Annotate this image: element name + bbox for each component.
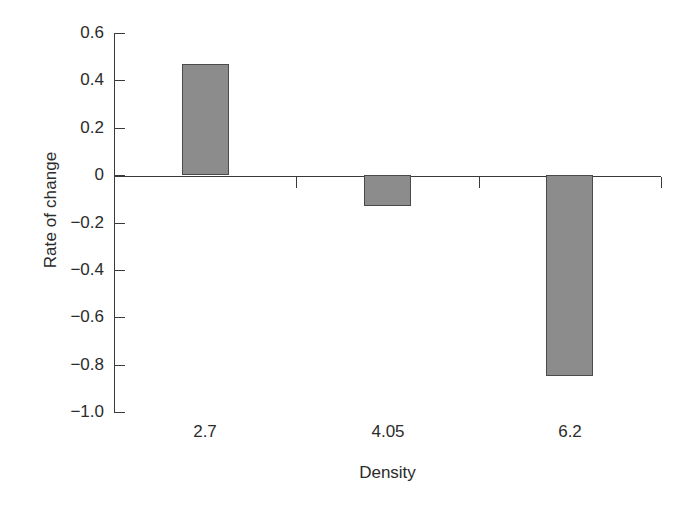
x-tick-label: 4.05 [328,422,448,442]
y-tick-mark [114,317,125,318]
y-tick-label: −0.6 [46,307,104,327]
x-axis-title: Density [114,463,661,483]
y-tick-label: 0.6 [46,23,104,43]
x-tick-mark [479,177,480,188]
y-tick-mark [114,175,125,176]
y-tick-label: −1.0 [46,402,104,422]
y-tick-mark [114,80,125,81]
x-tick-label: 2.7 [145,422,265,442]
y-tick-label: −0.2 [46,213,104,233]
y-tick-mark [114,365,125,366]
bar-chart: Rate of change 0.60.40.20−0.2−0.4−0.6−0.… [0,0,691,515]
y-axis-tick-labels: 0.60.40.20−0.2−0.4−0.6−0.8−1.0 [46,0,104,515]
y-tick-label: 0.4 [46,70,104,90]
y-tick-mark [114,223,125,224]
bar [364,175,411,206]
y-tick-label: −0.8 [46,355,104,375]
bar [546,175,593,376]
x-tick-mark [296,177,297,188]
y-tick-mark [114,128,125,129]
y-tick-mark [114,33,125,34]
bar [182,64,229,175]
y-tick-label: 0 [46,165,104,185]
y-tick-label: 0.2 [46,118,104,138]
x-axis-end-tick [661,177,662,188]
y-tick-mark [114,412,125,413]
y-tick-label: −0.4 [46,260,104,280]
y-tick-mark [114,270,125,271]
x-tick-label: 6.2 [510,422,630,442]
